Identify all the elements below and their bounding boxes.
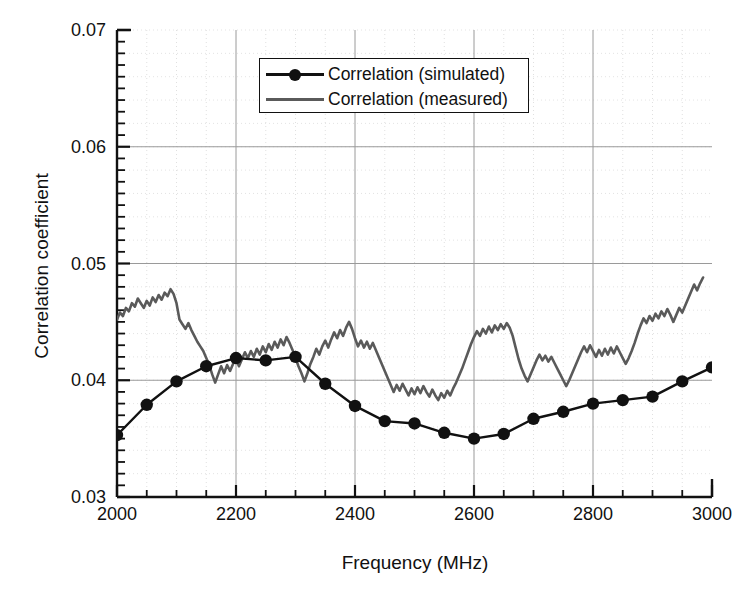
legend-marker-simulated: [266, 66, 324, 84]
legend-item-measured: Correlation (measured): [266, 87, 522, 112]
legend-label-simulated: Correlation (simulated): [328, 64, 505, 85]
legend-item-simulated: Correlation (simulated): [266, 62, 522, 87]
chart-figure: Correlation coefficient Frequency (MHz) …: [0, 0, 753, 595]
chart-legend: Correlation (simulated) Correlation (mea…: [259, 58, 529, 113]
legend-label-measured: Correlation (measured): [328, 89, 508, 110]
legend-marker-measured: [266, 91, 324, 109]
